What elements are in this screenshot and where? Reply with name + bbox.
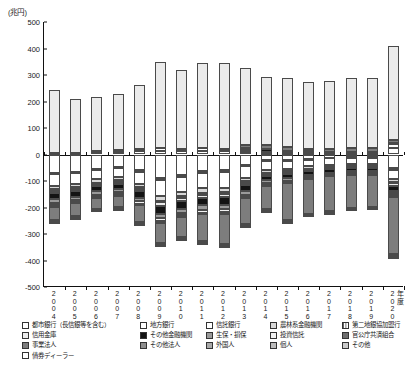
legend-item[interactable]: その他法人 xyxy=(140,341,206,349)
bar-segment xyxy=(176,155,187,176)
x-axis-label: 2010 xyxy=(172,290,190,320)
x-axis-label: 2011 xyxy=(193,290,211,320)
legend-item[interactable]: 債券ディーラー xyxy=(22,352,140,360)
bar-segment xyxy=(240,226,251,228)
zero-line-tick xyxy=(171,152,172,155)
x-axis-label: 2005 xyxy=(66,290,84,320)
legend-label: その他金融機関 xyxy=(150,331,192,339)
legend-item[interactable]: 外国人 xyxy=(206,341,270,349)
legend-item[interactable]: 信託銀行 xyxy=(206,321,270,329)
legend-item[interactable]: 信用金庫 xyxy=(22,331,140,339)
legend-item[interactable]: 地方銀行 xyxy=(140,321,206,329)
legend-item[interactable]: 第二地銀協加盟行 xyxy=(342,321,410,329)
bar-segment xyxy=(134,155,145,171)
legend-row: 事業法人その他法人外国人個人その他 xyxy=(22,341,410,349)
bar-segment xyxy=(155,245,166,247)
legend-item[interactable]: その他金融機関 xyxy=(140,331,206,339)
legend-label: 第二地銀協加盟行 xyxy=(352,321,400,329)
bar-segment xyxy=(240,198,251,225)
legend-label: 官公庁共済組合 xyxy=(352,331,394,339)
zero-line-tick xyxy=(44,152,45,155)
bar-segment xyxy=(113,150,124,152)
bar-segment xyxy=(219,214,230,244)
bar-segment xyxy=(49,174,60,186)
legend-label: 地方銀行 xyxy=(150,321,174,329)
zero-line-tick xyxy=(277,152,278,155)
zero-line-tick xyxy=(319,152,320,155)
y-axis-tick-mark xyxy=(44,128,47,129)
bar-group xyxy=(282,22,293,286)
bar-segment xyxy=(70,99,81,153)
bar-segment xyxy=(70,218,81,220)
y-axis-tick-label: 300 xyxy=(27,71,44,80)
x-axis-label: 2006 xyxy=(87,290,105,320)
y-axis-tick-label: 500 xyxy=(27,18,44,27)
legend-label: その他 xyxy=(352,341,370,349)
y-axis-tick-mark xyxy=(44,48,47,49)
bar-segment xyxy=(324,176,335,210)
legend-item[interactable]: 生保・損保 xyxy=(206,331,270,339)
zero-line-tick xyxy=(150,152,151,155)
bar-segment xyxy=(303,179,314,214)
legend-swatch xyxy=(206,332,213,339)
x-axis-title: 年度 xyxy=(396,290,405,305)
bar-segment xyxy=(91,151,102,153)
bar-segment xyxy=(282,183,293,220)
legend-item[interactable]: 事業法人 xyxy=(22,341,140,349)
bar-segment xyxy=(134,205,145,222)
legend-swatch xyxy=(206,342,213,349)
bar-segment xyxy=(49,207,60,220)
legend-swatch xyxy=(342,322,349,329)
bar-segment xyxy=(282,147,293,150)
legend-label: 個人 xyxy=(280,341,292,349)
bar-segment xyxy=(388,257,399,259)
bar-segment xyxy=(367,152,378,154)
legend-swatch xyxy=(22,322,29,329)
bar-segment xyxy=(388,170,399,179)
zero-line-tick xyxy=(362,152,363,155)
legend-item[interactable]: 都市銀行（長信銀等を含む） xyxy=(22,321,140,329)
bar-segment xyxy=(113,168,124,177)
bar-segment xyxy=(176,239,187,241)
legend-item[interactable]: 官公庁共済組合 xyxy=(342,331,410,339)
bar-segment xyxy=(219,155,230,171)
zero-line-tick xyxy=(192,152,193,155)
x-axis-label: 2018 xyxy=(341,290,359,320)
legend-item[interactable]: その他 xyxy=(342,341,410,349)
legend-swatch xyxy=(206,322,213,329)
bar-segment xyxy=(134,172,145,184)
bar-segment xyxy=(219,149,230,152)
bar-group xyxy=(155,22,166,286)
bar-segment xyxy=(197,173,208,188)
bar-segment xyxy=(155,62,166,147)
bar-segment xyxy=(261,152,272,154)
zero-line-tick xyxy=(340,152,341,155)
zero-line-tick xyxy=(65,152,66,155)
chart-root: (兆円) 5004003002001000-100-200-300-400-50… xyxy=(0,0,413,377)
bar-segment xyxy=(388,197,399,254)
x-axis-label: 2013 xyxy=(235,290,253,320)
legend-swatch xyxy=(22,332,29,339)
bar-segment xyxy=(388,140,399,144)
bar-group xyxy=(70,22,81,286)
legend-label: 事業法人 xyxy=(32,341,56,349)
bar-segment xyxy=(282,161,293,169)
chart-legend: 都市銀行（長信銀等を含む）地方銀行信託銀行農林系金融機関第二地銀協加盟行信用金庫… xyxy=(22,321,410,362)
bar-segment xyxy=(282,151,293,153)
y-axis-tick-label: -400 xyxy=(25,256,44,265)
legend-item[interactable]: 投資信託 xyxy=(270,331,342,339)
bar-segment xyxy=(91,97,102,151)
legend-item[interactable]: 個人 xyxy=(270,341,342,349)
bar-group xyxy=(261,22,272,286)
legend-swatch xyxy=(270,322,277,329)
legend-item[interactable]: 農林系金融機関 xyxy=(270,321,342,329)
zero-line-tick xyxy=(256,152,257,155)
bar-segment xyxy=(49,222,60,224)
bar-segment xyxy=(176,217,187,237)
legend-swatch xyxy=(342,332,349,339)
zero-line-tick xyxy=(383,152,384,155)
bar-segment xyxy=(176,201,187,208)
bar-segment xyxy=(155,206,166,214)
bar-segment xyxy=(367,208,378,210)
bar-segment xyxy=(324,152,335,154)
